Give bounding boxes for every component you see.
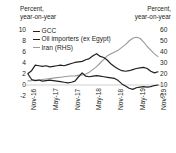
footer-source-clipped [8, 147, 168, 150]
line-series-oil-importers [28, 54, 158, 74]
plot-area [0, 0, 176, 153]
line-series-iran [28, 37, 158, 81]
line-series-gcc [28, 73, 158, 90]
chart-figure: Percent, year-on-year Percent, year-on-y… [0, 0, 176, 153]
